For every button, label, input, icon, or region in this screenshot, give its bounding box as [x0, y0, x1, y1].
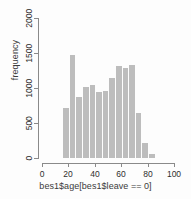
- histogram-bar: [142, 143, 148, 158]
- histogram-bar: [63, 108, 69, 158]
- histogram-bar: [103, 91, 109, 158]
- histogram-bar: [76, 97, 82, 158]
- histogram-bar: [90, 85, 96, 159]
- histogram-figure: frequency 0500100015002000 020406080100 …: [0, 0, 191, 199]
- histogram-bar: [116, 66, 122, 158]
- histogram-bar: [136, 113, 142, 159]
- histogram-bar: [96, 92, 102, 159]
- histogram-bar: [83, 87, 89, 158]
- histogram-bar: [129, 65, 135, 158]
- histogram-bar: [109, 78, 115, 159]
- x-axis-title: bes1$age[bes1$leave == 0]: [0, 181, 191, 191]
- histogram-bar: [70, 55, 76, 158]
- plot-area: [0, 0, 191, 199]
- histogram-bar: [123, 68, 129, 158]
- histogram-bar: [149, 154, 155, 158]
